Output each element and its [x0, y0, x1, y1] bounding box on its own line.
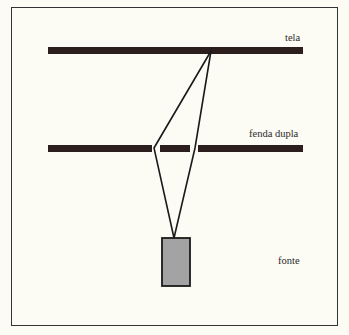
slit-barrier-middle	[160, 145, 190, 152]
double-slit-diagram	[0, 0, 349, 335]
slit-barrier-left	[48, 145, 152, 152]
path-through-right-slit	[174, 51, 211, 238]
light-source	[162, 238, 190, 286]
screen-bar	[48, 47, 303, 54]
slit-barrier-right	[198, 145, 303, 152]
screen-label: tela	[285, 32, 300, 43]
source-label: fonte	[278, 255, 300, 266]
path-through-left-slit	[154, 51, 211, 238]
slits-label: fenda dupla	[249, 128, 298, 139]
